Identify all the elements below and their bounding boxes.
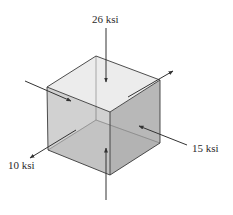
label-26ksi: 26 ksi — [92, 14, 119, 25]
label-15ksi: 15 ksi — [192, 143, 219, 154]
stress-cube-diagram — [0, 0, 233, 215]
label-10ksi: 10 ksi — [8, 160, 35, 171]
